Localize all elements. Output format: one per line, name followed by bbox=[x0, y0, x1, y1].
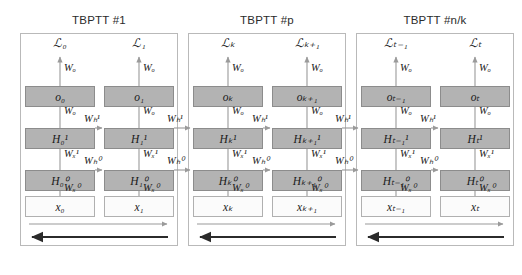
hidden-layer0-block: Hₜ⁰ bbox=[440, 170, 510, 191]
weight-label-wx0: Wₓ⁰ bbox=[479, 181, 495, 193]
weight-label-wx0: Wₓ⁰ bbox=[232, 181, 248, 193]
weight-label-wo: Wₒ bbox=[143, 62, 155, 73]
weight-label-wx1: Wₓ¹ bbox=[143, 148, 158, 159]
bridge-weight-label-wh1: Wₕ¹ bbox=[335, 112, 351, 124]
output-block: o₁ bbox=[104, 86, 174, 107]
hidden-layer0-block: Hₖ₊₁⁰ bbox=[272, 170, 342, 191]
weight-label-wo: Wₒ bbox=[232, 105, 244, 116]
weight-label-wx0: Wₓ⁰ bbox=[64, 181, 80, 193]
weight-label-wh1: Wₕ¹ bbox=[84, 112, 100, 124]
weight-label-wo: Wₒ bbox=[232, 62, 244, 73]
input-block: x₁ bbox=[104, 196, 174, 217]
output-block: oₖ₊₁ bbox=[272, 86, 342, 107]
loss-label: ℒₜ bbox=[450, 36, 500, 51]
weight-label-wx1: Wₓ¹ bbox=[311, 148, 326, 159]
weight-label-wx0: Wₓ⁰ bbox=[400, 181, 416, 193]
hidden-layer0-block: Hₖ⁰ bbox=[193, 170, 263, 191]
weight-label-wo: Wₒ bbox=[311, 62, 323, 73]
weight-label-wx1: Wₓ¹ bbox=[64, 148, 79, 159]
panel-title-1: TBPTT #1 bbox=[20, 12, 178, 28]
weight-label-wo: Wₒ bbox=[143, 105, 155, 116]
loss-label: ℒ₀ bbox=[35, 36, 85, 51]
weight-label-wh0: Wₕ⁰ bbox=[84, 154, 101, 166]
tbptt-diagram: TBPTT #1 TBPTT #p TBPTT #n/k bbox=[0, 0, 522, 275]
weight-label-wh0: Wₕ⁰ bbox=[252, 154, 269, 166]
weight-label-wo: Wₒ bbox=[479, 105, 491, 116]
hidden-layer1-block: Hₖ₊₁¹ bbox=[272, 128, 342, 149]
bridge-weight-label-wh0: Wₕ⁰ bbox=[335, 154, 352, 166]
weight-label-wo: Wₒ bbox=[400, 62, 412, 73]
weight-label-wo: Wₒ bbox=[64, 62, 76, 73]
hidden-layer0-block: H₁⁰ bbox=[104, 170, 174, 191]
weight-label-wh1: Wₕ¹ bbox=[252, 112, 268, 124]
bridge-weight-label-wh0: Wₕ⁰ bbox=[167, 154, 184, 166]
weight-label-wx0: Wₓ⁰ bbox=[311, 181, 327, 193]
loss-label: ℒₖ bbox=[203, 36, 253, 51]
output-block: o₀ bbox=[25, 86, 95, 107]
input-block: xₜ bbox=[440, 196, 510, 217]
panel-title-2: TBPTT #p bbox=[188, 12, 346, 28]
hidden-layer0-block: H₀⁰ bbox=[25, 170, 95, 191]
weight-label-wx1: Wₓ¹ bbox=[479, 148, 494, 159]
weight-label-wo: Wₒ bbox=[400, 105, 412, 116]
panel-title-3: TBPTT #n/k bbox=[356, 12, 514, 28]
output-block: oₜ₋₁ bbox=[361, 86, 431, 107]
weight-label-wx0: Wₓ⁰ bbox=[143, 181, 159, 193]
bridge-weight-label-wh1: Wₕ¹ bbox=[167, 112, 183, 124]
hidden-layer1-block: H₁¹ bbox=[104, 128, 174, 149]
input-block: xₖ₊₁ bbox=[272, 196, 342, 217]
weight-label-wo: Wₒ bbox=[311, 105, 323, 116]
weight-label-wx1: Wₓ¹ bbox=[400, 148, 415, 159]
weight-label-wh1: Wₕ¹ bbox=[420, 112, 436, 124]
hidden-layer1-block: Hₜ¹ bbox=[440, 128, 510, 149]
weight-label-wx1: Wₓ¹ bbox=[232, 148, 247, 159]
input-block: x₀ bbox=[25, 196, 95, 217]
loss-label: ℒₜ₋₁ bbox=[368, 36, 424, 51]
loss-label: ℒ₁ bbox=[114, 36, 164, 51]
loss-label: ℒₖ₊₁ bbox=[280, 36, 335, 51]
hidden-layer1-block: Hₖ¹ bbox=[193, 128, 263, 149]
hidden-layer1-block: H₀¹ bbox=[25, 128, 95, 149]
output-block: oₜ bbox=[440, 86, 510, 107]
hidden-layer0-block: Hₜ₋₁⁰ bbox=[361, 170, 431, 191]
input-block: xₖ bbox=[193, 196, 263, 217]
output-block: oₖ bbox=[193, 86, 263, 107]
hidden-layer1-block: Hₜ₋₁¹ bbox=[361, 128, 431, 149]
weight-label-wh0: Wₕ⁰ bbox=[420, 154, 437, 166]
input-block: xₜ₋₁ bbox=[361, 196, 431, 217]
weight-label-wo: Wₒ bbox=[479, 62, 491, 73]
weight-label-wo: Wₒ bbox=[64, 105, 76, 116]
